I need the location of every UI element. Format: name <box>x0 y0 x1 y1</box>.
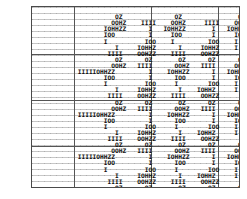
figure-canvas: OZ OZ OZ OOHZ IIII OOHZ IIII OOHZ IOHHZZ… <box>0 0 247 199</box>
minor-gridlines <box>32 7 239 187</box>
major-gridline-vertical <box>74 7 75 187</box>
major-gridline-vertical <box>151 7 152 187</box>
major-gridline-vertical <box>218 7 219 187</box>
plot-frame: OZ OZ OZ OOHZ IIII OOHZ IIII OOHZ IOHHZZ… <box>31 6 240 188</box>
major-gridline-horizontal <box>32 100 239 101</box>
ascii-glyph-map: OZ OZ OZ OOHZ IIII OOHZ IIII OOHZ IOHHZZ… <box>32 13 239 181</box>
major-gridline-horizontal <box>32 146 239 147</box>
major-gridline-horizontal <box>32 54 239 55</box>
